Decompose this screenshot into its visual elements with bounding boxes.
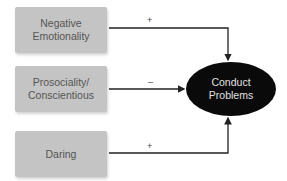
sign-negative-emotionality: + xyxy=(147,15,152,25)
sign-daring: + xyxy=(147,141,152,151)
predictor-negative-emotionality: Negative Emotionality xyxy=(15,7,107,53)
arrow-negative-emotionality xyxy=(109,28,228,60)
sign-prosociality: – xyxy=(148,77,153,87)
predictor-label: Daring xyxy=(46,148,77,161)
predictor-daring: Daring xyxy=(15,131,107,177)
predictor-label: Negative Emotionality xyxy=(32,17,89,43)
predictor-label: Prosociality/ Conscientious xyxy=(28,76,94,102)
predictor-prosociality-conscientious: Prosociality/ Conscientious xyxy=(15,66,107,112)
outcome-conduct-problems: Conduct Problems xyxy=(186,62,276,116)
outcome-label: Conduct Problems xyxy=(209,76,253,102)
arrow-daring xyxy=(109,118,228,153)
